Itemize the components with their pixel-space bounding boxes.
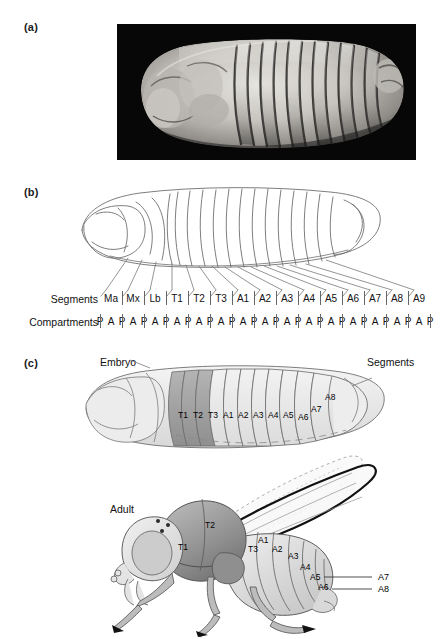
- adult-segment-tag: A6: [318, 582, 328, 592]
- adult-segment-tag: A1: [258, 535, 268, 545]
- adult-segment-tag: T1: [178, 542, 188, 552]
- figure-root: (a): [0, 0, 440, 639]
- adult-leader-tag: A7: [378, 572, 389, 582]
- adult-segment-tag: T3: [248, 544, 258, 554]
- adult-leader-tag: A8: [378, 584, 389, 594]
- adult-segment-tag: A4: [300, 562, 310, 572]
- adult-segment-tag: A2: [272, 544, 282, 554]
- adult-segment-tag: T2: [205, 520, 215, 530]
- adult-segment-tag: A3: [288, 551, 298, 561]
- adult-segment-tag: A5: [310, 572, 320, 582]
- adult-segment-tags: T1T2T3A1A2A3A4A5A6A7A8: [0, 0, 440, 639]
